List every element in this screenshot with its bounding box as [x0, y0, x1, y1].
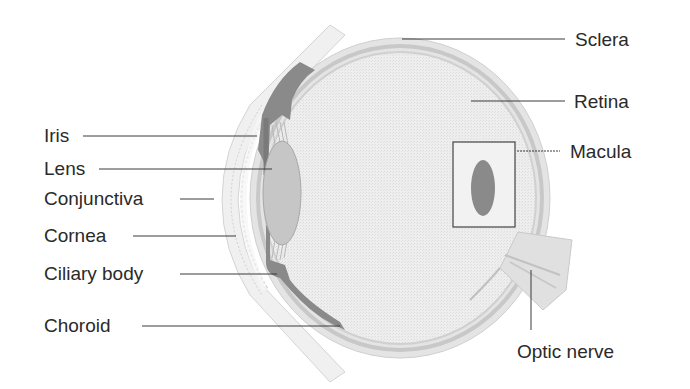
label-choroid: Choroid	[44, 316, 111, 335]
label-sclera: Sclera	[575, 30, 629, 49]
label-optic-nerve: Optic nerve	[517, 342, 614, 361]
label-cornea: Cornea	[44, 226, 106, 245]
label-lens: Lens	[44, 159, 85, 178]
lens-shape	[263, 141, 301, 245]
label-iris: Iris	[44, 126, 69, 145]
label-macula: Macula	[570, 142, 631, 161]
eye-diagram: Iris Lens Conjunctiva Cornea Ciliary bod…	[0, 0, 690, 389]
label-retina: Retina	[574, 92, 629, 111]
label-ciliary-body: Ciliary body	[44, 264, 143, 283]
macula-region	[453, 142, 515, 227]
label-conjunctiva: Conjunctiva	[44, 189, 143, 208]
